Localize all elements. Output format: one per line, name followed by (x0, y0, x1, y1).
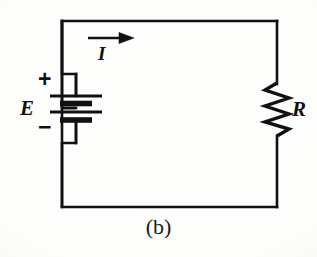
resistor-label-R: R (292, 99, 306, 120)
circuit-loop-wires (62, 21, 277, 207)
resistor-symbol (265, 83, 289, 136)
figure-caption: (b) (0, 216, 317, 238)
negative-terminal-sign: − (38, 116, 51, 139)
wire-left-into-battery (62, 21, 76, 74)
circuit-figure: E I R + − (b) (0, 0, 317, 257)
wire-left-out-of-battery (62, 143, 76, 207)
resistor-zigzag-path (265, 83, 289, 136)
current-arrow-glyph (88, 33, 134, 44)
current-arrow-head (119, 33, 134, 44)
current-label-I: I (98, 44, 105, 63)
positive-terminal-sign: + (38, 68, 51, 91)
source-label-E: E (20, 98, 34, 119)
